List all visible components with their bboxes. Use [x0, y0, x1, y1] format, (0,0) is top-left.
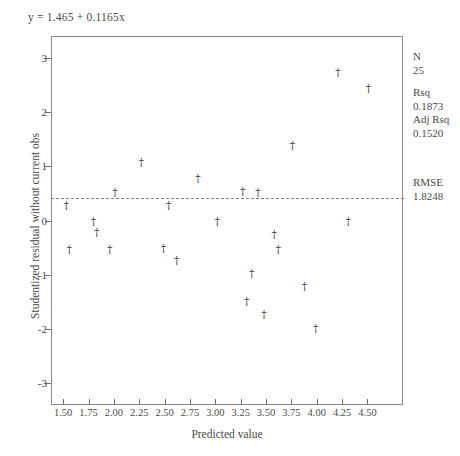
stat-rmse: RMSE 1.8248: [413, 176, 449, 203]
x-tick-label: 3.25: [232, 407, 250, 418]
x-tick-label: 2.25: [130, 407, 148, 418]
data-point: †: [249, 267, 255, 278]
data-point: †: [335, 66, 341, 77]
stat-adj-rsq: Adj Rsq 0.1520: [413, 113, 449, 140]
x-tick-label: 1.50: [54, 407, 72, 418]
stat-rmse-value: 1.8248: [413, 190, 449, 204]
x-tick-mark: [139, 399, 140, 405]
data-point: †: [313, 322, 319, 333]
stat-rsq: Rsq 0.1873: [413, 86, 449, 113]
x-tick-label: 4.50: [358, 407, 376, 418]
fit-equation-label: y = 1.465 + 0.1165x: [28, 11, 125, 23]
stat-adj-rsq-value: 0.1520: [413, 127, 449, 141]
statistics-panel: N 25 Rsq 0.1873 Adj Rsq 0.1520 RMSE 1.82…: [413, 50, 449, 212]
x-tick-mark: [114, 399, 115, 405]
data-point: †: [94, 227, 100, 238]
data-point: †: [240, 186, 246, 197]
data-point: †: [244, 296, 250, 307]
data-point: †: [67, 243, 73, 254]
data-point: †: [112, 187, 118, 198]
stat-n: N 25: [413, 50, 449, 77]
data-point: †: [161, 243, 167, 254]
stat-rsq-value: 0.1873: [413, 100, 449, 114]
data-point: †: [215, 215, 221, 226]
x-tick-mark: [342, 399, 343, 405]
data-point: †: [302, 280, 308, 291]
x-tick-mark: [367, 399, 368, 405]
data-point: †: [255, 187, 261, 198]
data-point: †: [290, 139, 296, 150]
x-tick-mark: [266, 399, 267, 405]
x-tick-label: 3.00: [206, 407, 224, 418]
x-tick-mark: [165, 399, 166, 405]
data-point: †: [166, 199, 172, 210]
data-point: †: [271, 228, 277, 239]
x-tick-label: 4.25: [333, 407, 351, 418]
x-tick-label: 1.75: [79, 407, 97, 418]
data-point: †: [261, 308, 267, 319]
data-point: †: [366, 83, 372, 94]
x-tick-mark: [190, 399, 191, 405]
x-tick-label: 3.50: [257, 407, 275, 418]
x-tick-mark: [291, 399, 292, 405]
x-tick-mark: [89, 399, 90, 405]
x-tick-mark: [215, 399, 216, 405]
x-tick-label: 2.75: [181, 407, 199, 418]
scatter-plot-figure: y = 1.465 + 0.1165x 3210-1-2-3 1.501.752…: [0, 0, 460, 456]
y-axis-title: Studentized residual without current obs: [29, 111, 41, 341]
x-tick-mark: [317, 399, 318, 405]
x-tick-label: 3.75: [282, 407, 300, 418]
data-point: †: [195, 172, 201, 183]
data-point: †: [63, 200, 69, 211]
stat-n-label: N: [413, 50, 449, 64]
data-point: †: [139, 157, 145, 168]
data-point: †: [107, 243, 113, 254]
data-point: †: [345, 215, 351, 226]
y-tick-label: -3: [17, 377, 47, 389]
x-tick-mark: [63, 399, 64, 405]
y-tick-label: 3: [17, 52, 47, 64]
stat-n-value: 25: [413, 64, 449, 78]
x-tick-mark: [241, 399, 242, 405]
zero-reference-line: [51, 198, 404, 199]
x-tick-label: 2.50: [155, 407, 173, 418]
x-tick-label: 4.00: [308, 407, 326, 418]
data-point: †: [91, 215, 97, 226]
data-point: †: [275, 243, 281, 254]
stat-rsq-label: Rsq: [413, 86, 449, 100]
stat-adj-rsq-label: Adj Rsq: [413, 113, 449, 127]
stat-rmse-label: RMSE: [413, 176, 449, 190]
x-axis-title: Predicted value: [51, 428, 403, 440]
data-point: †: [174, 254, 180, 265]
x-tick-label: 2.00: [105, 407, 123, 418]
